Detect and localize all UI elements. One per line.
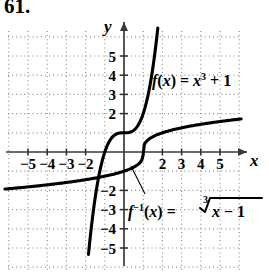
svg-text:f(x) = x3 + 1: f(x) = x3 + 1 — [152, 71, 231, 90]
y-tick-label: −5 — [100, 241, 116, 257]
y-tick-label: 5 — [109, 49, 117, 65]
x-tick-label: −3 — [58, 156, 74, 172]
radicand-var: x — [211, 203, 220, 220]
f-equation-annotation: f(x) = x3 + 1 — [152, 71, 231, 90]
x-axis-arrow — [238, 148, 247, 156]
f-arg: x — [162, 72, 171, 89]
y-tick-label: −3 — [100, 202, 116, 218]
f-inverse-leader-line — [131, 166, 145, 194]
finv-arg: x — [148, 203, 157, 220]
y-tick-label: 2 — [109, 106, 117, 122]
x-tick-label: −5 — [20, 156, 36, 172]
y-tick-label: −2 — [100, 183, 116, 199]
finv-eq: ) = — [157, 203, 175, 221]
x-tick-label: 4 — [197, 156, 205, 172]
f-base: x — [192, 72, 201, 89]
y-axis-arrow — [120, 22, 128, 31]
f-tail: + 1 — [206, 72, 231, 89]
y-tick-label: 4 — [109, 68, 117, 84]
x-axis-label: x — [249, 151, 259, 170]
radicand-rest: − 1 — [220, 203, 245, 220]
y-tick-label: −4 — [100, 221, 117, 237]
curve-f-inverse — [5, 119, 241, 189]
svg-text:f−1(x) =: f−1(x) = — [128, 202, 176, 221]
y-tick-label: 3 — [109, 87, 117, 103]
x-tick-label: −4 — [39, 156, 56, 172]
y-axis-label: y — [102, 17, 112, 36]
finv-exponent: −1 — [133, 202, 144, 213]
f-inverse-equation-annotation: f−1(x) = 3 x − 1 — [128, 194, 262, 221]
figure-container: 61. −5−4−3−223455432−2−3−4−5 y x — [0, 0, 269, 272]
svg-text:x − 1: x − 1 — [211, 203, 245, 220]
x-tick-label: 2 — [159, 156, 167, 172]
x-tick-label: −2 — [78, 156, 94, 172]
x-tick-label: 5 — [216, 156, 224, 172]
graph-svg: −5−4−3−223455432−2−3−4−5 y x f(x) = x3 +… — [0, 0, 269, 272]
f-eq: ) = — [171, 72, 193, 90]
x-tick-label: 3 — [178, 156, 186, 172]
